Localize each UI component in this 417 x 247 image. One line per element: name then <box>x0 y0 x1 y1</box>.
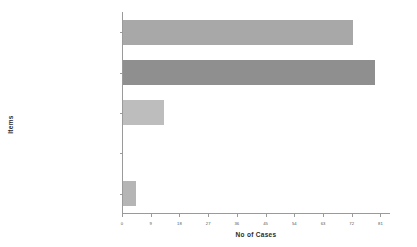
x-tick-mark <box>122 214 123 217</box>
x-tick-label: 54 <box>282 222 306 226</box>
x-tick-label: 72 <box>340 222 364 226</box>
bar[interactable] <box>123 100 164 125</box>
x-tick-label: 9 <box>139 222 163 226</box>
bar[interactable] <box>123 181 136 206</box>
y-tick-mark <box>120 153 123 154</box>
y-tick-mark <box>120 194 123 195</box>
bar-row: HUMAN RIGHTS GENERAL <box>123 93 164 133</box>
x-tick-label: 18 <box>167 222 191 226</box>
x-tick-mark <box>179 214 180 217</box>
x-tick-mark <box>266 214 267 217</box>
x-tick-label: 36 <box>225 222 249 226</box>
bar[interactable] <box>123 20 353 45</box>
x-tick-label: 45 <box>254 222 278 226</box>
x-tick-label: 27 <box>196 222 220 226</box>
y-tick-mark <box>120 73 123 74</box>
y-axis-title: Items <box>2 96 18 152</box>
x-tick-mark <box>323 214 324 217</box>
plot-area: WAR_CRIMES/CRIMES_AGAINST_HUMANITYCIVIL/… <box>122 12 390 214</box>
y-axis-title-text: Items <box>7 115 14 133</box>
x-axis-line <box>122 213 390 214</box>
bar-row: ECONOMIC/SOCIAL/CULTURAL <box>123 174 136 214</box>
bar[interactable] <box>123 60 375 85</box>
x-tick-mark <box>352 214 353 217</box>
x-tick-label: 0 <box>110 222 134 226</box>
x-tick-label: 63 <box>311 222 335 226</box>
x-tick-label: 81 <box>368 222 392 226</box>
y-tick-mark <box>120 113 123 114</box>
bar-chart: Items WAR_CRIMES/CRIMES_AGAINST_HUMANITY… <box>0 0 417 247</box>
x-tick-mark <box>151 214 152 217</box>
x-tick-mark <box>237 214 238 217</box>
x-axis-title: No of Cases <box>122 231 390 238</box>
x-tick-mark <box>208 214 209 217</box>
x-tick-mark <box>294 214 295 217</box>
x-tick-mark <box>380 214 381 217</box>
bar-row: CIVIL/POLITICAL <box>123 52 375 92</box>
y-tick-mark <box>120 32 123 33</box>
bar-row: WAR_CRIMES/CRIMES_AGAINST_HUMANITY <box>123 12 353 52</box>
